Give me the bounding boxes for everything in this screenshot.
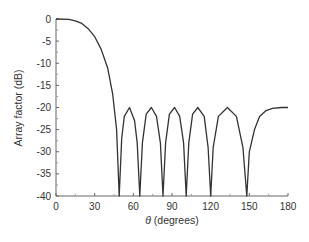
array-factor-chart: 0-5-10-15-20-25-30-35-40 030609012015018…	[0, 0, 309, 242]
y-tick-label: -25	[37, 124, 52, 135]
x-tick-label: 60	[128, 201, 140, 212]
y-axis-title: Array factor (dB)	[12, 69, 24, 146]
x-tick-label: 180	[280, 201, 297, 212]
y-tick-label: -15	[37, 80, 52, 91]
plot-area: 0-5-10-15-20-25-30-35-40 030609012015018…	[37, 14, 297, 213]
y-tick-label: -10	[37, 58, 52, 69]
x-tick-label: 90	[166, 201, 178, 212]
y-tick-label: -40	[37, 191, 52, 202]
y-tick-label: 0	[45, 14, 51, 25]
x-tick-label: 0	[53, 201, 59, 212]
y-tick-label: -5	[42, 36, 51, 47]
x-axis-unit: (degrees)	[151, 214, 199, 226]
y-tick-label: -30	[37, 146, 52, 157]
y-tick-label: -35	[37, 168, 52, 179]
x-axis-title: θ (degrees)	[145, 214, 199, 226]
x-tick-label: 120	[202, 201, 219, 212]
x-tick-label: 30	[89, 201, 101, 212]
array-factor-line	[56, 19, 288, 196]
y-tick-label: -20	[37, 102, 52, 113]
x-tick-label: 150	[241, 201, 258, 212]
